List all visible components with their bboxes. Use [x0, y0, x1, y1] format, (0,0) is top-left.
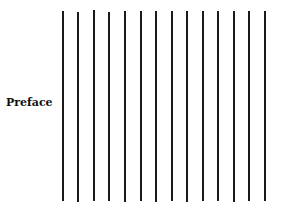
vertical-rule	[155, 11, 157, 202]
vertical-rule	[248, 11, 250, 201]
vertical-rule	[217, 11, 219, 201]
vertical-rule	[233, 11, 235, 202]
vertical-rule	[202, 11, 204, 201]
vertical-rules	[0, 0, 298, 221]
vertical-rule	[108, 12, 110, 201]
vertical-rule	[171, 11, 173, 201]
vertical-rule	[186, 11, 188, 202]
vertical-rule	[124, 11, 126, 202]
vertical-rule	[93, 10, 95, 201]
vertical-rule	[264, 11, 266, 201]
vertical-rule	[140, 11, 142, 201]
vertical-rule	[62, 11, 64, 201]
vertical-rule	[77, 12, 79, 202]
